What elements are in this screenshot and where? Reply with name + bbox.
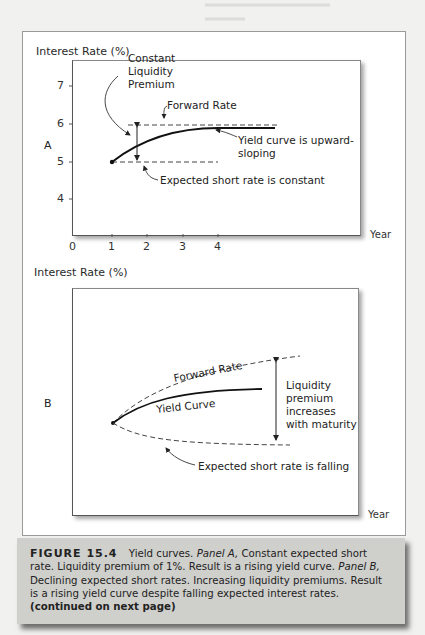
figure-number: FIGURE 15.4 (30, 547, 118, 560)
figure-caption: FIGURE 15.4 Yield curves. Panel A, Const… (17, 538, 405, 624)
caption-panel-a-label: Panel A, (197, 548, 239, 559)
panel-b-expected-short-rate-label: Expected short rate is falling (198, 460, 349, 473)
caption-panel-b-label: Panel B, (338, 561, 379, 572)
caption-continued: (continued on next page) (30, 600, 393, 613)
panel-b-expected-short-rate-line (113, 423, 290, 445)
panel-b-liquidity-premium-label: Liquidity premium increases with maturit… (286, 379, 357, 431)
caption-panel-b-text: Declining expected short rates. Increasi… (30, 575, 382, 599)
caption-intro: Yield curves. (129, 548, 194, 559)
